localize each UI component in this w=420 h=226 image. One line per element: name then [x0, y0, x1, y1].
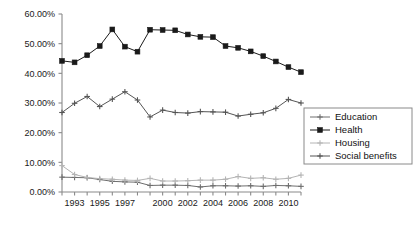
legend-label: Housing — [335, 137, 370, 148]
x-axis-tick-label: 2000 — [153, 198, 173, 208]
data-point — [198, 34, 203, 39]
x-axis-tick-label: 2002 — [178, 198, 198, 208]
y-axis-tick-label: 50.00% — [24, 39, 55, 49]
chart-container: 0.00%10.00%20.00%30.00%40.00%50.00%60.00… — [0, 0, 420, 226]
data-point — [223, 44, 228, 49]
data-point — [148, 27, 153, 32]
y-axis-tick-label: 20.00% — [24, 128, 55, 138]
x-axis-tick-label: 1995 — [90, 198, 110, 208]
data-point — [160, 28, 165, 33]
y-axis-tick-label: 60.00% — [24, 9, 55, 19]
legend-label: Education — [335, 111, 377, 122]
data-point — [185, 32, 190, 37]
data-point — [60, 58, 65, 63]
y-axis-tick-label: 30.00% — [24, 98, 55, 108]
x-axis-tick-label: 2008 — [253, 198, 273, 208]
x-axis-tick-label: 2006 — [228, 198, 248, 208]
y-axis-tick-label: 10.00% — [24, 158, 55, 168]
data-point — [72, 60, 77, 65]
x-axis-tick-label: 1997 — [115, 198, 135, 208]
data-point — [261, 54, 266, 59]
data-point — [236, 45, 241, 50]
y-axis-tick-label: 40.00% — [24, 69, 55, 79]
data-point — [248, 49, 253, 54]
legend-marker — [318, 128, 323, 133]
y-axis-tick-label: 0.00% — [29, 187, 55, 197]
data-point — [286, 65, 291, 70]
data-point — [211, 35, 216, 40]
line-chart: 0.00%10.00%20.00%30.00%40.00%50.00%60.00… — [0, 0, 420, 226]
data-point — [173, 28, 178, 33]
data-point — [299, 70, 304, 75]
data-point — [135, 49, 140, 54]
legend-label: Health — [335, 124, 362, 135]
x-axis-tick-label: 2004 — [203, 198, 223, 208]
data-point — [85, 53, 90, 58]
chart-legend: EducationHealthHousingSocial benefits — [304, 108, 412, 164]
data-point — [97, 44, 102, 49]
data-point — [122, 44, 127, 49]
x-axis-tick-label: 1993 — [65, 198, 85, 208]
data-point — [273, 59, 278, 64]
legend-label: Social benefits — [335, 150, 397, 161]
data-point — [110, 27, 115, 32]
x-axis-tick-label: 2010 — [278, 198, 298, 208]
